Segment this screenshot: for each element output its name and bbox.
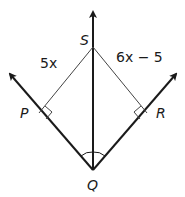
- label-Q: Q: [87, 177, 98, 193]
- ray-QP: [10, 74, 93, 170]
- geometry-figure: S P R Q 5x 6x − 5: [0, 0, 185, 197]
- angle-arc-right: [93, 152, 105, 156]
- label-S: S: [80, 32, 89, 48]
- label-SR-length: 6x − 5: [116, 49, 163, 65]
- label-SP-length: 5x: [40, 55, 57, 71]
- label-P: P: [20, 105, 29, 121]
- label-R: R: [156, 105, 166, 121]
- angle-arc-left: [81, 152, 93, 156]
- ray-QR: [93, 74, 176, 170]
